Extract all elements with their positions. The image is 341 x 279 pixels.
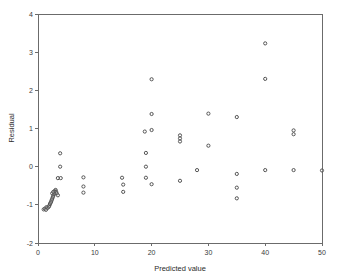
data-point (264, 77, 267, 80)
data-point (144, 151, 147, 154)
data-point (195, 169, 198, 172)
plot-canvas: -2-101234 01020304050 Predicted value Re… (0, 0, 341, 279)
data-point (235, 186, 238, 189)
data-point (122, 183, 125, 186)
y-tick-label: 4 (29, 11, 33, 18)
data-point (150, 112, 153, 115)
data-point (292, 133, 295, 136)
y-tick-label: -1 (27, 201, 33, 208)
data-point (178, 179, 181, 182)
data-point (150, 183, 153, 186)
data-point (82, 191, 85, 194)
data-point (120, 176, 123, 179)
y-tick-label: 0 (29, 163, 33, 170)
data-point (264, 169, 267, 172)
data-point (82, 176, 85, 179)
x-tick-label: 20 (148, 249, 156, 256)
data-point (144, 165, 147, 168)
data-point (235, 172, 238, 175)
data-point (59, 165, 62, 168)
x-tick-label: 10 (91, 249, 99, 256)
data-point (207, 112, 210, 115)
x-tick-label: 40 (261, 249, 269, 256)
x-tick-label: 50 (318, 249, 326, 256)
y-axis-title: Residual (7, 113, 16, 143)
data-point (320, 169, 323, 172)
data-point (52, 190, 55, 193)
y-tick-group: -2-101234 (27, 11, 38, 247)
data-point (144, 176, 147, 179)
data-points-layer (42, 42, 324, 212)
data-point (292, 129, 295, 132)
residual-scatter-plot: -2-101234 01020304050 Predicted value Re… (0, 0, 341, 279)
data-point (56, 194, 59, 197)
y-tick-label: 2 (29, 87, 33, 94)
data-point (59, 177, 62, 180)
data-point (143, 130, 146, 133)
x-tick-group: 01020304050 (36, 243, 326, 256)
y-tick-label: -2 (27, 240, 33, 247)
x-tick-label: 0 (36, 249, 40, 256)
y-tick-label: 1 (29, 125, 33, 132)
data-point (82, 185, 85, 188)
data-point (150, 78, 153, 81)
x-tick-label: 30 (205, 249, 213, 256)
y-tick-label: 3 (29, 49, 33, 56)
data-point (59, 152, 62, 155)
data-point (150, 128, 153, 131)
x-axis-title: Predicted value (154, 264, 206, 273)
data-point (122, 190, 125, 193)
data-point (264, 42, 267, 45)
data-point (207, 144, 210, 147)
data-point (235, 115, 238, 118)
data-point (178, 140, 181, 143)
data-point (292, 169, 295, 172)
data-point (235, 197, 238, 200)
